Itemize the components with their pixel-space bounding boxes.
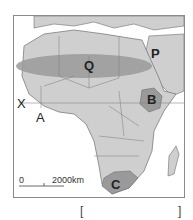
scale-start: 0: [19, 176, 24, 185]
label-a: A: [36, 111, 45, 124]
africa-map: [14, 16, 184, 197]
label-x: X: [17, 97, 26, 110]
answer-bracket-right: ]: [178, 204, 181, 218]
answer-bracket-left: [: [80, 204, 83, 218]
label-c: C: [111, 178, 120, 191]
map-frame: Q P B C X A 0 2000km: [13, 15, 185, 198]
scale-end: 2000km: [52, 176, 84, 185]
label-q: Q: [84, 59, 94, 72]
label-b: B: [147, 93, 156, 106]
label-p: P: [151, 47, 160, 60]
